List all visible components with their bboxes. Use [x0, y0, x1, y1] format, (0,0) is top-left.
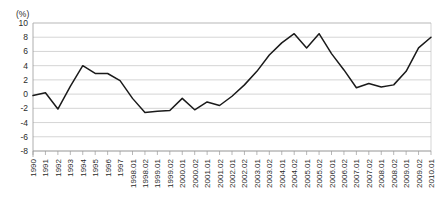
x-axis-tick-label: 1990 — [29, 158, 38, 176]
gridlines-group — [33, 23, 431, 151]
data-series-line — [33, 34, 431, 113]
x-axis-tick-label: 2001.01 — [203, 158, 212, 187]
x-axis-tick-label: 2009.02 — [415, 158, 424, 187]
x-axis-tick-label: 2003.01 — [253, 158, 262, 187]
x-axis-tick-label: 2007.01 — [352, 158, 361, 187]
chart-container: (%) 1086420-2-4-6-8 19901991199219931994… — [0, 0, 438, 212]
x-axis-tick-label: 1998.01 — [129, 158, 138, 187]
x-axis-tick-label: 1994 — [79, 158, 88, 176]
x-axis-tick-label: 1996 — [104, 158, 113, 176]
x-axis-tick-label: 2008.01 — [377, 158, 386, 187]
x-axis-tick-label: 2001.02 — [216, 158, 225, 187]
x-axis-tick-label: 1995 — [91, 158, 100, 176]
x-axis-tick-label: 1993 — [66, 158, 75, 176]
x-axis-tick-label: 1991 — [41, 158, 50, 176]
x-axis-tick-label: 2004.01 — [278, 158, 287, 187]
y-axis-tick-label: -4 — [20, 118, 28, 128]
y-axis-tick-label: 6 — [23, 46, 28, 56]
x-axis-tick-label: 1998.02 — [141, 158, 150, 187]
y-axis-tick-label: -8 — [20, 146, 28, 156]
x-axis-tick-label: 2008.02 — [390, 158, 399, 187]
line-chart-svg: 1086420-2-4-6-8 199019911992199319941995… — [0, 0, 438, 212]
y-axis-tick-label: 0 — [23, 89, 28, 99]
x-axis-tick-label: 2002.02 — [240, 158, 249, 187]
x-axis-tick-label: 2000.01 — [178, 158, 187, 187]
x-axis-tick-label: 2002.01 — [228, 158, 237, 187]
x-axis-tick-label: 1997 — [116, 158, 125, 176]
x-axis-tick-label: 1999.02 — [166, 158, 175, 187]
x-axis-tick-label: 2010.01 — [427, 158, 436, 187]
series-group — [33, 34, 431, 113]
x-axis-tick-marks — [33, 151, 431, 155]
x-axis-tick-label: 1992 — [54, 158, 63, 176]
x-axis-tick-label: 1999.01 — [153, 158, 162, 187]
x-axis-tick-label: 2004.02 — [290, 158, 299, 187]
plot-area: 1086420-2-4-6-8 199019911992199319941995… — [0, 0, 438, 212]
y-axis-tick-label: 10 — [19, 18, 29, 28]
y-axis-tick-label: 8 — [23, 32, 28, 42]
x-axis-tick-label: 2006.02 — [340, 158, 349, 187]
x-axis-tick-label: 2007.02 — [365, 158, 374, 187]
y-axis-tick-label: -2 — [20, 103, 28, 113]
y-axis-tick-label: 2 — [23, 75, 28, 85]
x-axis-tick-label: 2006.01 — [328, 158, 337, 187]
x-axis-tick-label: 2003.02 — [265, 158, 274, 187]
x-axis-tick-label: 2009.01 — [402, 158, 411, 187]
x-axis-tick-labels: 199019911992199319941995199619971998.011… — [29, 158, 436, 187]
x-axis-tick-label: 2005.02 — [315, 158, 324, 187]
y-axis-tick-labels: 1086420-2-4-6-8 — [19, 18, 29, 156]
x-axis-tick-label: 2005.01 — [303, 158, 312, 187]
y-axis-tick-label: -6 — [20, 132, 28, 142]
y-axis-tick-label: 4 — [23, 61, 28, 71]
x-axis-tick-label: 2000.02 — [191, 158, 200, 187]
